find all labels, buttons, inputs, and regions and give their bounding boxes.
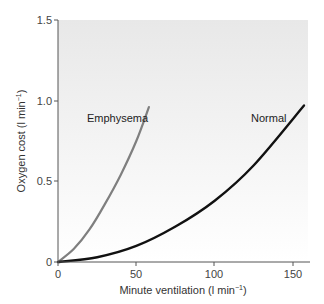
y-axis-title: Oxygen cost (l min−1) [15,90,27,193]
y-tick-label: 0 [46,256,52,268]
y-ticks [54,20,58,262]
normal-label: Normal [251,112,286,124]
y-tick-label: 1.0 [37,95,52,107]
plot-area [58,20,308,262]
x-axis-title: Minute ventilation (l min−1) [119,284,246,296]
y-tick-label: 0.5 [37,175,52,187]
x-tick-label: 100 [205,268,223,280]
x-tick-label: 50 [130,268,142,280]
x-tick-label: 0 [55,268,61,280]
y-tick-label: 1.5 [37,14,52,26]
chart: 0 0.5 1.0 1.5 0 50 100 150 Minute ventil… [0,0,324,304]
emphysema-label: Emphysema [87,112,149,124]
x-ticks [58,262,293,266]
x-tick-label: 150 [284,268,302,280]
